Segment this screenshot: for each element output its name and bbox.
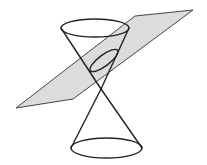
conic-section-diagram: [0, 0, 207, 165]
lower-cone-base-ellipse: [71, 138, 142, 158]
